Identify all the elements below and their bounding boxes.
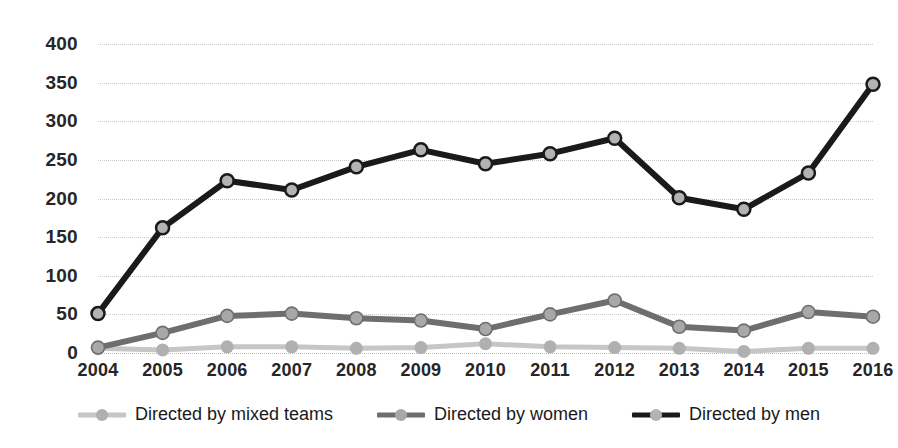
plot-area [98,44,873,353]
data-point [414,314,427,327]
data-point [479,337,492,350]
x-axis-tick-label: 2016 [853,360,894,381]
legend-item-directed-by-men[interactable]: Directed by men [632,404,820,425]
data-point [737,203,750,216]
data-point [544,340,557,353]
x-axis-tick-label: 2009 [400,360,441,381]
y-axis-tick-label: 0 [67,342,78,364]
legend-label: Directed by women [434,404,588,425]
x-axis-tick-label: 2012 [594,360,635,381]
data-point [737,324,750,337]
x-axis-tick-label: 2006 [207,360,248,381]
x-axis-tick-label: 2011 [530,360,570,381]
data-point [479,323,492,336]
data-point [544,308,557,321]
legend-item-directed-by-women[interactable]: Directed by women [377,404,588,425]
y-axis-tick-label: 350 [45,72,78,94]
data-point [92,307,105,320]
y-axis-tick-label: 300 [45,110,78,132]
x-axis-tick-label: 2015 [788,360,829,381]
y-axis-tick-label: 400 [45,33,78,55]
x-axis-tick-label: 2004 [78,360,119,381]
data-point [802,342,815,355]
data-point [673,320,686,333]
chart-legend: Directed by mixed teamsDirected by women… [0,404,898,425]
legend-swatch-icon [377,407,425,423]
data-point [737,345,750,358]
x-axis-tick-label: 2014 [723,360,764,381]
legend-swatch-icon [78,407,126,423]
data-point [156,221,169,234]
x-axis: 2004200520062007200820092010201120122013… [98,360,873,390]
x-axis-tick-label: 2005 [142,360,183,381]
data-point [285,184,298,197]
data-point [92,341,105,354]
y-axis-tick-label: 150 [45,226,78,248]
y-axis: 050100150200250300350400 [0,44,86,353]
data-point [608,132,621,145]
legend-label: Directed by mixed teams [135,404,333,425]
data-point [673,342,686,355]
series-layer [98,44,873,353]
legend-swatch-icon [632,407,680,423]
data-point [673,191,686,204]
y-axis-tick-label: 200 [45,188,78,210]
y-axis-tick-label: 250 [45,149,78,171]
x-axis-tick-label: 2008 [336,360,377,381]
data-point [414,341,427,354]
line-chart: 050100150200250300350400 200420052006200… [0,0,898,448]
data-point [802,306,815,319]
x-axis-tick-label: 2013 [659,360,700,381]
data-point [221,340,234,353]
data-point [479,157,492,170]
data-point [285,340,298,353]
series-line [98,84,873,313]
y-axis-tick-label: 100 [45,265,78,287]
data-point [867,310,880,323]
data-point [221,174,234,187]
data-point [867,342,880,355]
data-point [350,160,363,173]
data-point [608,294,621,307]
data-point [608,341,621,354]
data-point [156,326,169,339]
legend-label: Directed by men [689,404,820,425]
series-directed-by-men [92,78,880,320]
y-axis-tick-label: 50 [56,303,78,325]
data-point [156,343,169,356]
data-point [350,312,363,325]
data-point [867,78,880,91]
legend-item-directed-by-mixed-teams[interactable]: Directed by mixed teams [78,404,333,425]
data-point [414,143,427,156]
x-axis-tick-label: 2010 [465,360,506,381]
data-point [802,167,815,180]
data-point [221,309,234,322]
data-point [544,147,557,160]
data-point [285,307,298,320]
series-directed-by-mixed-teams [92,337,880,358]
data-point [350,342,363,355]
x-axis-tick-label: 2007 [271,360,312,381]
